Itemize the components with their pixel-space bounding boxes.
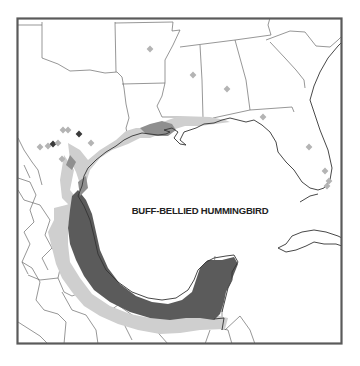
record-diamond-icon (322, 168, 329, 175)
record-diamond-icon (260, 114, 267, 121)
record-diamond-icon (37, 144, 44, 151)
record-diamond-icon (306, 144, 313, 151)
map-title: BUFF-BELLIED HUMMINGBIRD (132, 205, 269, 216)
record-diamond-icon (76, 131, 83, 138)
record-diamond-icon (65, 127, 72, 134)
record-diamond-icon (224, 86, 231, 93)
record-diamond-icon (190, 72, 197, 79)
resident-range (66, 121, 238, 320)
record-diamond-icon (88, 140, 95, 147)
record-diamond-icon (147, 46, 154, 53)
range-map: BUFF-BELLIED HUMMINGBIRD (0, 0, 360, 366)
record-diamond-icon (55, 140, 62, 147)
